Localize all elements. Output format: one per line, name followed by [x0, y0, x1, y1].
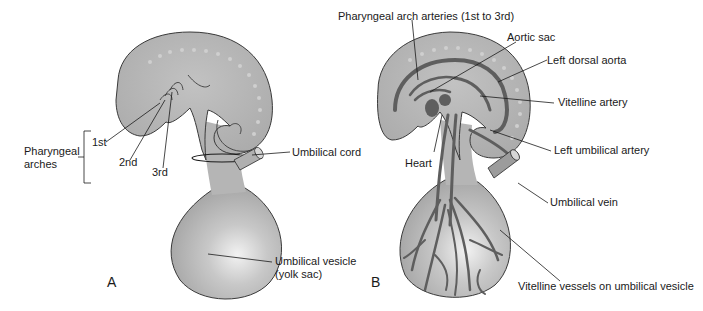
label-umbilical-vein: Umbilical vein: [550, 196, 618, 209]
label-line-1: Umbilical vesicle: [275, 255, 356, 268]
panel-label-a: A: [107, 274, 116, 290]
label-left-dorsal-aorta: Left dorsal aorta: [547, 54, 627, 67]
label-heart: Heart: [405, 157, 432, 170]
label-line-1: Pharyngeal: [24, 145, 80, 158]
label-3rd-arch: 3rd: [152, 166, 168, 179]
label-2nd-arch: 2nd: [119, 156, 137, 169]
label-aortic-sac: Aortic sac: [507, 31, 555, 44]
label-line-2: arches: [24, 158, 80, 171]
label-line-2: (yolk sac): [275, 268, 356, 281]
label-left-umbilical-artery: Left umbilical artery: [554, 144, 649, 157]
label-pharyngeal-arches: Pharyngeal arches: [24, 145, 80, 171]
umbilical-vesicle-a: [171, 188, 281, 299]
label-vitelline-vessels: Vitelline vessels on umbilical vesicle: [518, 280, 694, 293]
label-umbilical-vesicle: Umbilical vesicle (yolk sac): [275, 255, 356, 281]
label-1st-arch: 1st: [92, 136, 107, 149]
heart-b: [425, 99, 439, 117]
label-vitelline-artery: Vitelline artery: [558, 96, 628, 109]
label-umbilical-cord: Umbilical cord: [292, 146, 361, 159]
panel-label-b: B: [371, 274, 380, 290]
label-pharyngeal-arch-arteries: Pharyngeal arch arteries (1st to 3rd): [338, 10, 514, 23]
embryo-a: [78, 32, 290, 299]
